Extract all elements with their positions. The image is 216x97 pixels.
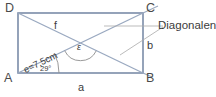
- angle-label-29: 29°: [40, 65, 51, 73]
- vertex-label-b: B: [146, 72, 154, 85]
- side-label-b: b: [147, 40, 153, 51]
- callout-label-diagonalen: Diagonalen: [158, 20, 216, 32]
- side-label-a: a: [78, 82, 84, 93]
- angle-epsilon-arc: [65, 51, 97, 61]
- vertex-label-a: A: [4, 72, 12, 85]
- vertex-label-d: D: [5, 2, 14, 15]
- figure-canvas: [0, 0, 216, 97]
- vertex-label-c: C: [146, 2, 155, 15]
- angle-label-epsilon: ε: [77, 43, 81, 52]
- geometry-figure: D C A B a b f e=7,5cm 29° ε Diagonalen: [0, 0, 216, 97]
- callout-leader-lower: [120, 27, 163, 55]
- diagonal-label-f: f: [54, 20, 57, 31]
